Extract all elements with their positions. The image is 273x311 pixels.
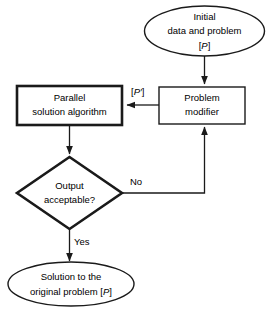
node-initial-data-line2: data and problem [168, 25, 242, 36]
node-initial-data-line3: [P] [199, 39, 211, 50]
node-solution-prefix: original problem [ [30, 285, 103, 296]
edge-label-no: No [130, 176, 142, 187]
node-initial-data-bracket-close: ] [208, 39, 211, 50]
node-solution-suffix: ] [109, 285, 112, 296]
node-output-decision: Output acceptable? [17, 157, 122, 229]
node-output-decision-line1: Output [55, 180, 84, 191]
node-solution-line2: original problem [P] [30, 285, 112, 296]
node-initial-data: Initial data and problem [P] [145, 6, 265, 56]
node-output-decision-line2: acceptable? [44, 194, 95, 205]
node-problem-modifier: Problem modifier [159, 87, 245, 124]
node-problem-modifier-line1: Problem [184, 92, 219, 103]
node-parallel-algorithm-line1: Parallel [54, 92, 86, 103]
edge-label-bracket-close: ] [142, 86, 145, 97]
flowchart-canvas: Initial data and problem [P] Problem mod… [0, 0, 273, 311]
node-parallel-algorithm-line2: solution algorithm [32, 106, 107, 117]
edge-label-modified-problem: [P′] [131, 86, 144, 97]
node-parallel-algorithm: Parallel solution algorithm [17, 86, 122, 125]
node-solution: Solution to the original problem [P] [8, 262, 134, 306]
flowchart-diagram: Initial data and problem [P] Problem mod… [0, 0, 273, 311]
node-initial-data-line1: Initial [193, 11, 215, 22]
node-solution-line1: Solution to the [41, 271, 102, 282]
node-problem-modifier-line2: modifier [185, 106, 219, 117]
edge-label-yes: Yes [74, 236, 90, 247]
